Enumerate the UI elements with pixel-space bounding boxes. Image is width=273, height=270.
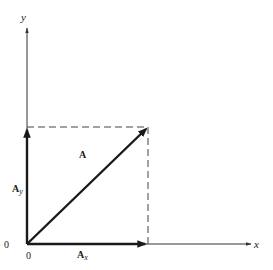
- vector-ay-label: Ay: [12, 183, 23, 196]
- origin-label-below: 0: [26, 250, 31, 261]
- vector-a-label: A: [79, 149, 87, 160]
- vector-ax-label: Ax: [77, 249, 88, 262]
- x-axis-label: x: [253, 238, 259, 250]
- vector-components-diagram: y x 0 0 A Ay Ax: [0, 0, 273, 270]
- y-axis-label: y: [20, 11, 26, 23]
- origin-label-left: 0: [4, 239, 9, 250]
- vector-a: [27, 129, 146, 244]
